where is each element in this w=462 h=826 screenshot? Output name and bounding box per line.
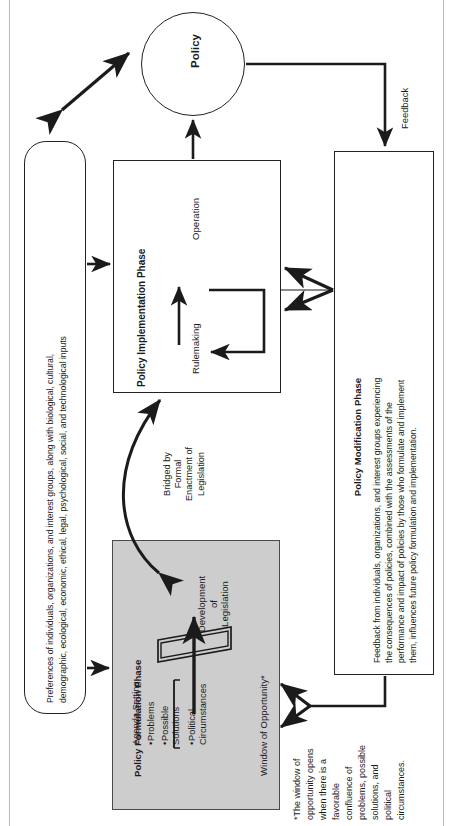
arrow-policy-to-modification [246,64,385,146]
arrow-modification-to-implementation [280,268,333,310]
footnote-line7: solutions, and [370,700,381,820]
policy-label: Policy [188,16,202,86]
footnote-line3: when there is a [318,700,329,820]
window-of-opportunity-label: Window of Opportunity* [258,626,270,776]
implementation-step-rulemaking: Rulemaking [190,294,202,374]
bridge-label: Bridged by Formal Enactment of Legislati… [162,414,207,534]
policy-modification-text-line3: performance and impact of policies by th… [396,193,407,663]
development-of-legislation-label: Development of Legislation [196,554,231,654]
feedback-label: Feedback [399,59,411,129]
page-rule-right [443,0,444,826]
footnote-line8: political [383,700,394,820]
footnote-line4: favorable [331,700,342,820]
footnote-line5: confluence of [344,700,355,820]
footnote-line9: circumstances. [396,700,407,820]
inputs-box-text-line2: demographic, ecological, economic, ethic… [58,143,69,703]
footnote-line6: problems, possible [357,700,368,820]
footnote-line1: *The window of [292,700,303,820]
policy-implementation-title: Policy Implementation Phase [136,157,149,387]
footnote-line2: opportunity opens [305,700,316,820]
policy-modification-text-line4: them, influences future policy formulati… [408,193,419,663]
inputs-box-text-line1: Preferences of individuals, organization… [45,143,56,703]
agenda-item-possible-solutions: • Possible Solutions [160,635,183,745]
agenda-item-problems: • Problems [146,635,157,745]
arrow-inputs-to-policy [62,53,129,110]
implementation-step-operation: Operation [190,160,202,240]
diagram-canvas: Preferences of individuals, organization… [0,0,462,826]
policy-modification-title: Policy Modification Phase [352,327,364,547]
policy-modification-text-line2: the consequences of policies, combined w… [384,193,395,663]
agenda-setting-label: Agenda Setting [131,635,143,745]
page-rule-left [9,0,10,826]
policy-modification-text-line1: Feedback from individuals, organizations… [372,193,383,663]
